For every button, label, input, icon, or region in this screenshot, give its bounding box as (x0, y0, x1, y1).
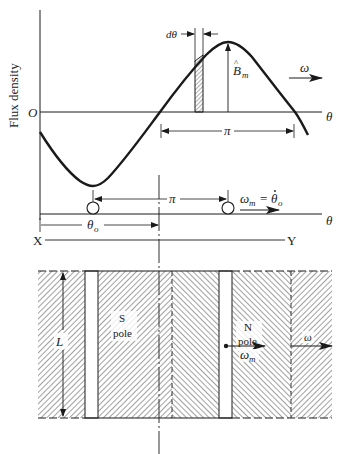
svg-text:θ: θ (87, 217, 94, 232)
figure: O θ Flux density dθ B ^ m ω π θ (0, 0, 349, 454)
svg-text:θ: θ (271, 191, 278, 206)
rotor-speed-label: ω m = θ o (240, 190, 283, 208)
flux-plot: O θ Flux density dθ B ^ m ω π (6, 10, 333, 220)
slot-1 (85, 271, 98, 418)
origin-label: O (28, 105, 38, 120)
svg-text:m: m (249, 198, 256, 208)
svg-text:ω: ω (240, 191, 249, 206)
offset-label: θ o (87, 217, 99, 234)
length-label: L (55, 334, 63, 349)
x-axis-label: θ (326, 109, 333, 124)
dtheta-label: dθ (166, 28, 178, 40)
y-axis-label: Flux density (6, 63, 21, 128)
diagram-canvas: O θ Flux density dθ B ^ m ω π θ (0, 0, 349, 454)
s-pole-label-line1: S (119, 312, 125, 324)
s-pole-region (98, 271, 172, 418)
svg-text:m: m (249, 354, 256, 364)
spacing-label: π (169, 191, 176, 206)
n-pole-fwd-region (291, 271, 332, 418)
conductor-1 (87, 202, 99, 214)
section-left-label: X (33, 233, 43, 248)
svg-text:=: = (260, 191, 267, 206)
svg-text:o: o (278, 198, 283, 208)
s-pole-back-region (172, 271, 219, 418)
section-line: X Y (33, 233, 297, 248)
field-speed-label: ω (304, 331, 312, 343)
track-axis-label: θ (326, 213, 333, 228)
wave-speed-label: ω (300, 60, 309, 75)
svg-text:ω: ω (240, 347, 249, 362)
section-right-label: Y (287, 233, 297, 248)
n-pole-label-line1: N (244, 321, 252, 333)
rotor-track: θ π ω m = θ o θ o (40, 190, 333, 234)
half-period-label: π (224, 123, 231, 138)
peak-amplitude-label: B ^ m (233, 58, 249, 80)
flux-wave (40, 42, 308, 186)
n-pole-label-line2: pole (238, 335, 257, 347)
s-pole-label-line2: pole (113, 327, 132, 339)
svg-text:o: o (94, 224, 99, 234)
conductor-2 (222, 202, 234, 214)
svg-text:m: m (242, 70, 249, 80)
pole-block: L S pole N pole ω m ω (38, 271, 332, 418)
